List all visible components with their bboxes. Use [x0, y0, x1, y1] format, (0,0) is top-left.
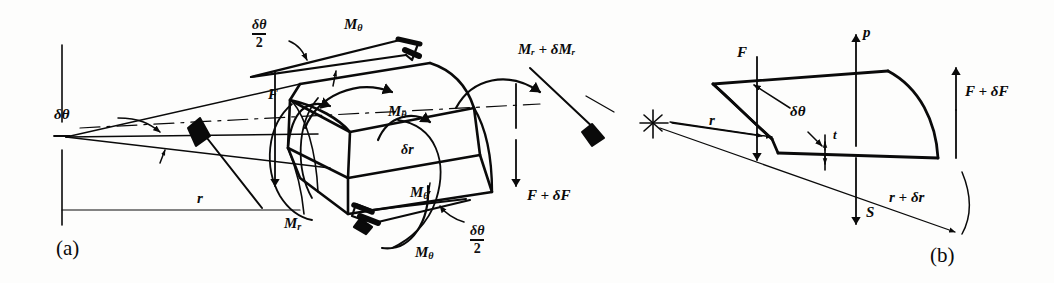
panel-b-outer-radius-label: r + δr [889, 190, 924, 205]
m-theta-mid-base: M [388, 103, 401, 119]
panel-a-force-f-label: F [268, 87, 278, 102]
panel-a-moment-theta-top-label: Mθ [344, 17, 363, 33]
m-theta-bot-sub: θ [428, 250, 433, 261]
panel-b-force-f-label: F [737, 45, 747, 60]
panel-b-thickness-label: t [833, 128, 837, 141]
half-angle-lower-num: δθ [470, 224, 484, 238]
panel-b-force-increment-label: F + δF [965, 84, 1008, 99]
m-theta-mid-sub: θ [401, 109, 406, 120]
m-r-base: M [284, 215, 297, 231]
delta-theta-leader-b [754, 85, 822, 146]
moment-arc-theta-top [305, 87, 392, 128]
panel-b-caption: (b) [930, 243, 955, 268]
outer-radius-arc-bracket [962, 172, 970, 234]
half-angle-upper-den: 2 [252, 36, 266, 50]
m-theta-vec-sub: θ [423, 190, 428, 201]
panel-a-caption: (a) [56, 236, 79, 261]
panel-b-inner-radius-label: r [709, 113, 715, 128]
panel-a-force-increment-label: F + δF [527, 188, 570, 203]
panel-a-moment-theta-bottom-label: Mθ [415, 245, 434, 261]
panel-b-delta-theta-label: δθ [790, 104, 805, 119]
m-theta-vec-base: M [410, 184, 423, 200]
panel-a-half-angle-upper: δθ 2 [252, 18, 266, 50]
m-r-sub: r [297, 221, 301, 232]
panel-a-moment-theta-mid-label: Mθ [388, 104, 407, 120]
delta-theta-leader [118, 118, 165, 163]
panel-a-delta-r-label: δr [401, 143, 414, 157]
apex-cross [640, 110, 668, 138]
half-angle-lower-den: 2 [470, 242, 484, 256]
figure-container: δθ r Mr F δθ 2 Mθ Mθ δr Mθ Mθ δθ 2 Mᵣ + … [0, 0, 1054, 283]
outer-radius-line [660, 128, 955, 232]
m-theta-bot-base: M [415, 244, 428, 260]
panel-a-radial-moment-label: Mr [284, 216, 301, 232]
panel-a-radius-label: r [197, 191, 203, 206]
panel-b-pressure-label: p [863, 25, 871, 40]
m-theta-top-sub: θ [357, 22, 362, 33]
panel-a-half-angle-lower: δθ 2 [470, 224, 484, 256]
m-theta-top-base: M [344, 16, 357, 32]
half-angle-upper-num: δθ [252, 18, 266, 32]
panel-a-drawing [54, 39, 614, 248]
panel-a-radial-moment-increment-label: Mᵣ + δMᵣ [518, 42, 575, 57]
panel-a-delta-theta-label: δθ [54, 107, 69, 122]
panel-a-moment-theta-vector-label: Mθ [410, 185, 429, 201]
radial-moment-increment-vector [530, 68, 614, 146]
panel-b-shear-label: S [866, 205, 874, 220]
